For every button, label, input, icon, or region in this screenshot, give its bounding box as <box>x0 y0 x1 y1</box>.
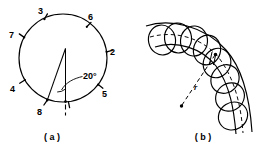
tick-dot-3 <box>43 18 45 20</box>
chain-circle-8 <box>213 97 253 136</box>
panel-a: 3 6 2 5 8 4 7 20° ( a ) <box>9 6 115 142</box>
panel-b-arc-center-dot <box>180 104 183 107</box>
panel-a-circle <box>19 14 107 102</box>
tick-dot-5 <box>97 84 99 86</box>
panel-a-label-2: 2 <box>110 47 115 57</box>
panel-a-label-5: 5 <box>102 89 107 99</box>
panel-a-label-4: 4 <box>10 84 15 94</box>
tick-dot-6 <box>86 26 88 28</box>
panel-b-radius-label: r <box>194 83 198 92</box>
panel-a-angle-leader <box>62 77 83 91</box>
tick-dot-4 <box>24 79 26 81</box>
panel-b-caption: ( b ) <box>195 132 212 142</box>
panel-a-label-8: 8 <box>37 107 42 117</box>
chain-circle-6 <box>205 59 245 99</box>
tick-dot-7 <box>23 36 25 38</box>
panel-b: r ( b ) <box>146 22 253 142</box>
panel-b-outer-curve <box>146 23 252 132</box>
tick-dot-2 <box>106 51 108 53</box>
figure-root: 3 6 2 5 8 4 7 20° ( a ) <box>0 0 270 148</box>
panel-a-slant-line <box>47 49 65 101</box>
figure-svg: 3 6 2 5 8 4 7 20° ( a ) <box>0 0 270 148</box>
panel-a-label-3: 3 <box>38 6 43 16</box>
panel-a-caption: ( a ) <box>44 132 60 142</box>
panel-a-angle-label: 20° <box>83 71 97 81</box>
panel-a-label-6: 6 <box>88 12 93 22</box>
panel-a-label-7: 7 <box>9 30 14 40</box>
tick-8-b <box>68 102 69 108</box>
